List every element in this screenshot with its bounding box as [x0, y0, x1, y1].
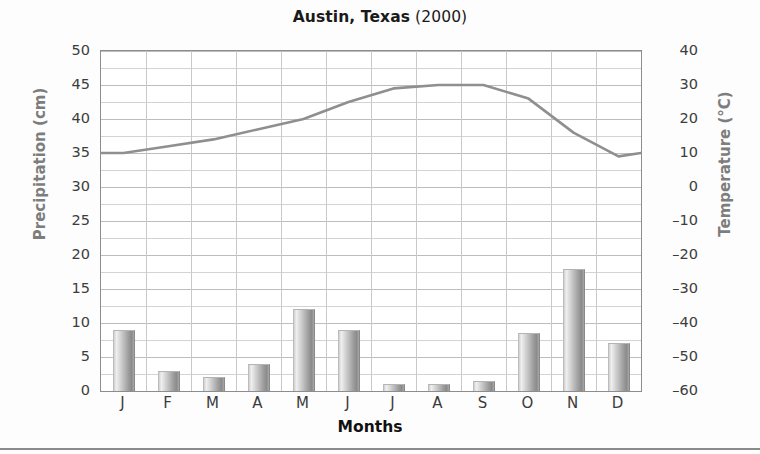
right-tick-label: 40 [652, 42, 698, 58]
left-tick-label: 45 [18, 76, 90, 92]
x-tick-label-7: A [418, 394, 458, 412]
right-tick-label: –10 [652, 212, 698, 228]
right-tick-label: –20 [652, 246, 698, 262]
left-tick-label: 40 [18, 110, 90, 126]
climograph-figure: Austin, Texas (2000) 5045403530252015105… [0, 0, 760, 454]
left-tick-label: 25 [18, 212, 90, 228]
plot-inner [101, 51, 641, 391]
x-axis-ticks: JFMAMJJASOND [100, 394, 640, 418]
right-tick-label: –60 [652, 382, 698, 398]
right-tick-label: –40 [652, 314, 698, 330]
right-axis-title: Temperature (°C) [716, 49, 734, 279]
left-tick-label: 30 [18, 178, 90, 194]
left-axis-title: Precipitation (cm) [31, 49, 49, 279]
x-tick-label-2: M [193, 394, 233, 412]
left-tick-label: 20 [18, 246, 90, 262]
left-tick-label: 5 [18, 348, 90, 364]
left-tick-label: 50 [18, 42, 90, 58]
x-tick-label-10: N [553, 394, 593, 412]
x-tick-label-4: M [283, 394, 323, 412]
left-tick-label: 10 [18, 314, 90, 330]
bottom-rule [0, 448, 760, 450]
right-tick-label: 0 [652, 178, 698, 194]
x-tick-label-8: S [463, 394, 503, 412]
x-tick-label-9: O [508, 394, 548, 412]
left-tick-label: 0 [18, 382, 90, 398]
chart-title-main: Austin, Texas [293, 8, 410, 26]
x-tick-label-0: J [103, 394, 143, 412]
plot-area [100, 50, 642, 392]
right-tick-label: 10 [652, 144, 698, 160]
left-tick-label: 35 [18, 144, 90, 160]
x-tick-label-11: D [598, 394, 638, 412]
x-tick-label-1: F [148, 394, 188, 412]
chart-title: Austin, Texas (2000) [0, 8, 760, 26]
x-tick-label-6: J [373, 394, 413, 412]
right-axis-ticks: 403020100–10–20–30–40–50–60 [652, 50, 702, 390]
right-tick-label: –30 [652, 280, 698, 296]
x-tick-label-3: A [238, 394, 278, 412]
x-tick-label-5: J [328, 394, 368, 412]
chart-title-year: (2000) [415, 8, 467, 26]
temperature-polyline [101, 85, 641, 156]
right-tick-label: 20 [652, 110, 698, 126]
right-tick-label: –50 [652, 348, 698, 364]
right-tick-label: 30 [652, 76, 698, 92]
x-axis-title: Months [100, 418, 640, 436]
left-tick-label: 15 [18, 280, 90, 296]
left-axis-ticks: 50454035302520151050 [10, 50, 90, 390]
temperature-line-series [101, 51, 641, 391]
